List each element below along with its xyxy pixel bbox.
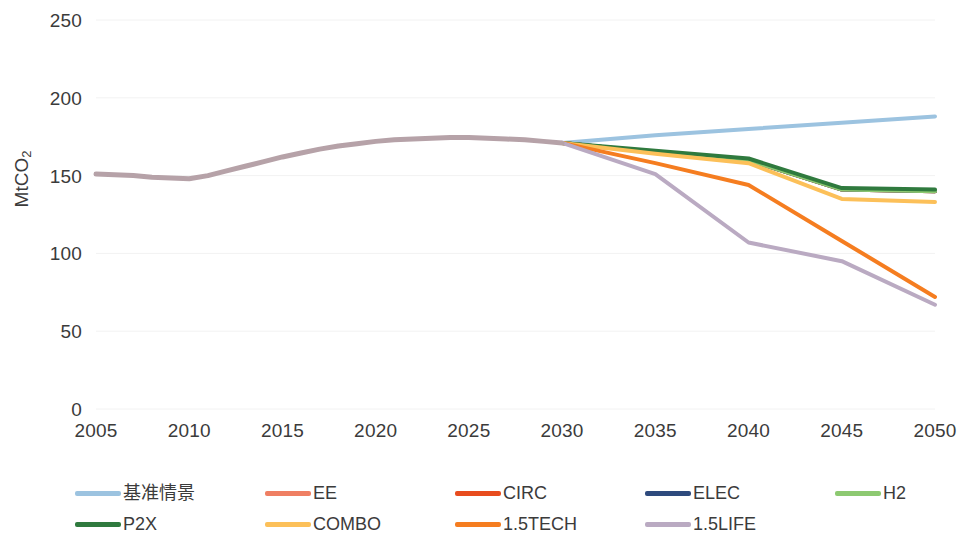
x-tick-label-2020: 2020 — [331, 421, 421, 440]
history-line — [96, 137, 562, 178]
legend-label: 1.5TECH — [503, 515, 577, 533]
legend-swatch-icon — [75, 522, 121, 527]
gridlines — [96, 20, 935, 409]
legend-item-3[interactable]: ELEC — [645, 480, 740, 506]
x-tick-label-2015: 2015 — [237, 421, 327, 440]
legend-swatch-icon — [455, 491, 501, 496]
emissions-line-chart: MtCO2 050100150200250 200520102015202020… — [0, 0, 968, 535]
x-tick-label-2035: 2035 — [610, 421, 700, 440]
legend-label: EE — [313, 484, 337, 502]
legend-item-2[interactable]: CIRC — [455, 480, 547, 506]
legend-item-1[interactable]: EE — [265, 480, 337, 506]
legend-item-0[interactable]: 基准情景 — [75, 480, 195, 506]
legend-swatch-icon — [265, 522, 311, 527]
series-lines — [562, 116, 935, 304]
legend-label: COMBO — [313, 515, 381, 533]
y-tick-label-100: 100 — [12, 244, 82, 263]
x-tick-label-2030: 2030 — [517, 421, 607, 440]
legend-swatch-icon — [645, 491, 691, 496]
x-tick-label-2040: 2040 — [704, 421, 794, 440]
y-tick-label-150: 150 — [12, 167, 82, 186]
y-tick-label-250: 250 — [12, 11, 82, 30]
plot-area — [96, 20, 935, 409]
y-axis: MtCO2 050100150200250 — [0, 0, 82, 535]
series-line-6 — [562, 143, 935, 202]
legend-item-4[interactable]: H2 — [835, 480, 906, 506]
legend-swatch-icon — [835, 491, 881, 496]
y-tick-label-200: 200 — [12, 89, 82, 108]
series-line-7 — [562, 143, 935, 297]
x-tick-label-2025: 2025 — [424, 421, 514, 440]
x-tick-label-2045: 2045 — [797, 421, 887, 440]
legend-label: 基准情景 — [123, 484, 195, 502]
legend-item-7[interactable]: 1.5TECH — [455, 511, 577, 535]
x-axis: 2005201020152020202520302035204020452050 — [0, 421, 968, 451]
legend-swatch-icon — [645, 522, 691, 527]
series-line-0 — [562, 116, 935, 142]
series-line-8 — [562, 143, 935, 305]
legend-label: ELEC — [693, 484, 740, 502]
chart-legend: 基准情景EECIRCELECH2P2XCOMBO1.5TECH1.5LIFE — [0, 466, 968, 532]
x-tick-label-2005: 2005 — [51, 421, 141, 440]
legend-item-5[interactable]: P2X — [75, 511, 157, 535]
legend-label: 1.5LIFE — [693, 515, 756, 533]
x-tick-label-2010: 2010 — [144, 421, 234, 440]
legend-item-8[interactable]: 1.5LIFE — [645, 511, 756, 535]
x-tick-label-2050: 2050 — [890, 421, 968, 440]
legend-label: CIRC — [503, 484, 547, 502]
legend-swatch-icon — [455, 522, 501, 527]
legend-label: H2 — [883, 484, 906, 502]
legend-item-6[interactable]: COMBO — [265, 511, 381, 535]
y-axis-title-subscript: 2 — [19, 151, 34, 158]
legend-label: P2X — [123, 515, 157, 533]
y-tick-label-0: 0 — [12, 400, 82, 419]
legend-swatch-icon — [265, 491, 311, 496]
history-polyline — [96, 137, 562, 178]
legend-swatch-icon — [75, 491, 121, 496]
plot-canvas — [96, 20, 935, 409]
y-tick-label-50: 50 — [12, 322, 82, 341]
